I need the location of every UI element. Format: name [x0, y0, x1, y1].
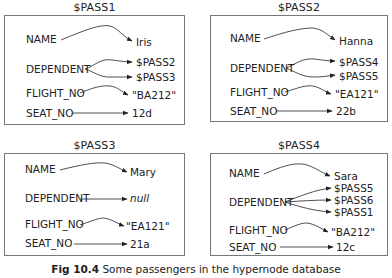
caption-text: Some passengers in the hypernode databas… — [102, 263, 340, 275]
caption-label: Fig 10.4 — [51, 263, 99, 275]
figure-caption: Fig 10.4 Some passengers in the hypernod… — [0, 263, 392, 275]
arrows-pass4 — [0, 0, 392, 278]
